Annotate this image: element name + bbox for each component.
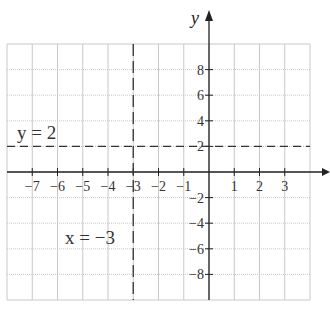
coordinate-plane: −7−6−5−4−3−2−11238642−2−4−6−8 y y = 2 x … [0, 0, 330, 335]
y-tick-label: −2 [189, 191, 204, 206]
x-tick-label: 3 [281, 179, 288, 194]
y-tick-label: 8 [197, 63, 204, 78]
y-tick-label: −8 [189, 267, 204, 282]
x-tick-label: −5 [75, 179, 90, 194]
y-tick-label: 4 [197, 114, 204, 129]
x-tick-label: −4 [101, 179, 116, 194]
y-axis-arrow-icon [205, 10, 213, 21]
x-axis-arrow-icon [322, 168, 330, 176]
equation-label-y-equals-2: y = 2 [17, 122, 56, 143]
x-tick-label: −6 [50, 179, 65, 194]
axes [7, 10, 330, 300]
equation-label-x-equals-neg-3: x = −3 [65, 227, 115, 248]
x-tick-label: 1 [231, 179, 238, 194]
y-axis-label: y [189, 8, 199, 28]
y-tick-label: −4 [189, 216, 204, 231]
y-tick-label: 6 [197, 88, 204, 103]
x-tick-label: −2 [151, 179, 166, 194]
x-tick-label: −7 [25, 179, 40, 194]
y-tick-label: −6 [189, 242, 204, 257]
x-tick-label: 2 [256, 179, 263, 194]
